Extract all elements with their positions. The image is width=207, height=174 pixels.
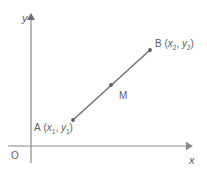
x-axis-label: x bbox=[189, 155, 195, 166]
point-label-b-paren-close: ) bbox=[191, 38, 194, 49]
point-marker-b bbox=[148, 48, 152, 52]
diagram-canvas bbox=[0, 0, 207, 174]
y-axis-arrowhead bbox=[27, 13, 35, 20]
point-label-m: M bbox=[119, 91, 127, 101]
point-label-b-name: B bbox=[155, 38, 162, 49]
point-label-a-sub-y: 1 bbox=[66, 128, 70, 135]
point-label-a-name: A bbox=[34, 122, 41, 133]
origin-label: O bbox=[11, 151, 19, 161]
point-label-a-sub-x: 1 bbox=[52, 128, 56, 135]
x-axis-arrowhead bbox=[186, 142, 193, 150]
point-label-b-sub-y: 2 bbox=[187, 44, 191, 51]
point-label-a: A (x1, y1) bbox=[34, 123, 73, 133]
coordinate-geometry-figure: y x O A (x1, y1) B (x2, y2) M bbox=[0, 0, 207, 174]
y-axis-label: y bbox=[22, 13, 28, 24]
point-label-b-sub-x: 2 bbox=[173, 44, 177, 51]
point-marker-m bbox=[109, 83, 113, 87]
point-label-b: B (x2, y2) bbox=[155, 39, 194, 49]
point-label-a-paren-close: ) bbox=[70, 122, 73, 133]
